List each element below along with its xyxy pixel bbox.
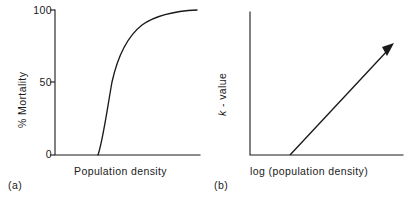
- panel-b: k - value log (population density) (b): [203, 0, 406, 200]
- panel-a: 100 50 0 % Mortality Population density …: [0, 0, 203, 200]
- panel-b-x-axis-title: log (population density): [250, 166, 368, 177]
- panel-a-ytick-label-100: 100: [26, 5, 52, 16]
- panel-b-y-axis-title-rest: - value: [216, 73, 228, 111]
- panel-a-x-axis-title: Population density: [74, 166, 167, 177]
- panel-b-label: (b): [214, 180, 228, 191]
- panel-b-axes: [250, 12, 403, 155]
- figure-container: 100 50 0 % Mortality Population density …: [0, 0, 406, 200]
- panel-b-y-axis-title-k: k: [216, 110, 228, 116]
- panel-a-ytick-label-50: 50: [26, 77, 52, 88]
- panel-b-y-axis-title: k - value: [217, 73, 228, 116]
- panel-a-label: (a): [8, 180, 22, 191]
- panel-a-y-axis-title: % Mortality: [17, 72, 28, 128]
- panel-a-ytick-label-0: 0: [26, 149, 52, 160]
- panel-b-kvalue-line: [290, 50, 388, 155]
- panel-a-axes: [55, 10, 200, 155]
- panel-a-mortality-curve: [98, 10, 197, 155]
